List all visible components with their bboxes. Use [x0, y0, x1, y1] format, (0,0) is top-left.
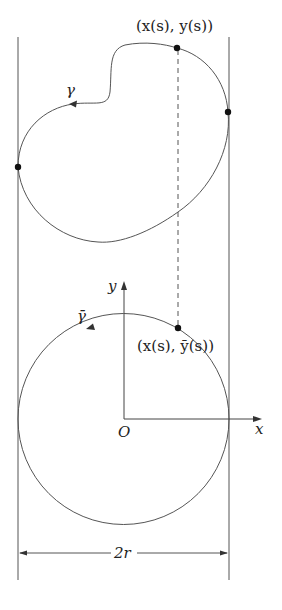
- width-left-arrow-icon: [19, 551, 27, 556]
- label-point-lower: (x(s), ȳ(s)): [137, 337, 214, 355]
- gamma-curve: [18, 43, 228, 242]
- label-gamma: γ: [66, 81, 75, 99]
- point-upper-dot: [174, 45, 180, 51]
- label-x-axis: x: [255, 420, 264, 438]
- label-origin: O: [118, 423, 130, 441]
- right-tangent-dot: [225, 109, 231, 115]
- gamma-direction-arrow-icon: [69, 101, 77, 108]
- label-gamma-bar: γ̄: [77, 307, 86, 325]
- diagram: (x(s), y(s)) γ γ̄ y (x(s), ȳ(s)) O x 2r: [0, 0, 282, 610]
- y-axis-arrow-icon: [121, 281, 127, 290]
- label-y-axis: y: [107, 277, 117, 295]
- width-right-arrow-icon: [220, 551, 228, 556]
- label-point-upper: (x(s), y(s)): [136, 17, 213, 35]
- gamma-bar-direction-arrow-icon: [86, 324, 95, 331]
- left-tangent-dot: [15, 164, 21, 170]
- label-width: 2r: [113, 544, 132, 562]
- point-lower-dot: [175, 325, 181, 331]
